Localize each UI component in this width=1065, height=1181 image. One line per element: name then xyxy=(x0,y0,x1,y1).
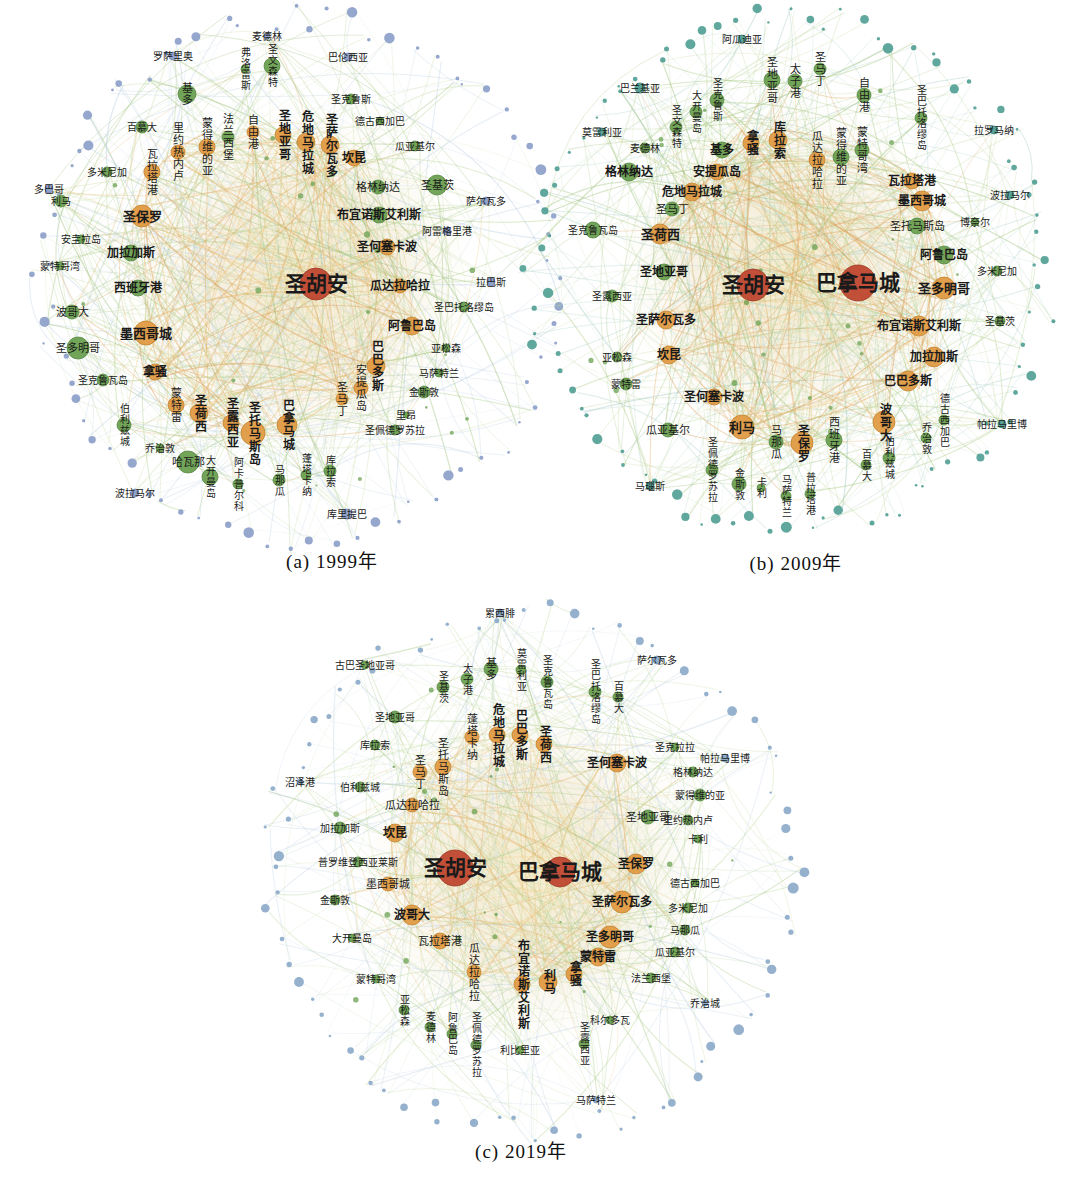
city-label: 圣佩德罗苏拉 xyxy=(471,1012,482,1078)
city-label: 圣巴托洛缪岛 xyxy=(434,301,494,313)
city-label: 普拉塔港 xyxy=(805,471,816,516)
city-label: 阿瓜迪亚 xyxy=(722,34,762,45)
speckle-dot xyxy=(113,183,118,188)
peripheral-dot xyxy=(432,1099,440,1107)
peripheral-dot xyxy=(731,521,736,526)
peripheral-dot xyxy=(540,189,548,197)
peripheral-dot xyxy=(548,234,551,237)
peripheral-dot xyxy=(505,107,509,111)
peripheral-dot xyxy=(71,164,74,167)
peripheral-dot xyxy=(930,467,934,471)
peripheral-dot xyxy=(767,21,769,23)
city-label: 亚松森 xyxy=(602,351,632,363)
peripheral-dot xyxy=(536,200,540,204)
speckle-dot xyxy=(444,353,447,356)
peripheral-dot xyxy=(694,1072,703,1081)
city-label: 波哥大 xyxy=(394,907,430,922)
city-label: 圣马丁 xyxy=(656,203,689,215)
peripheral-dot xyxy=(788,883,799,894)
peripheral-dot xyxy=(834,506,843,515)
city-label: 蒙特哥湾 xyxy=(356,973,396,985)
peripheral-dot xyxy=(533,405,538,410)
city-label: 马萨特兰 xyxy=(419,367,459,379)
city-label: 蒙特哥湾 xyxy=(40,260,80,272)
peripheral-dot xyxy=(42,342,44,344)
peripheral-dot xyxy=(788,856,793,861)
city-label: 大开曼岛 xyxy=(205,454,216,499)
peripheral-dot xyxy=(645,473,648,476)
peripheral-dot xyxy=(1021,343,1025,347)
peripheral-dot xyxy=(633,77,638,82)
edge xyxy=(1019,129,1032,181)
edge xyxy=(275,669,360,793)
city-label: 里约热内卢 xyxy=(172,122,185,182)
peripheral-dot xyxy=(359,1055,364,1060)
city-label: 危地马拉城 xyxy=(490,702,505,768)
city-label: 西班牙港 xyxy=(114,280,163,295)
city-label: 圣马丁 xyxy=(336,381,349,417)
peripheral-dot xyxy=(69,381,74,386)
city-label: 多米尼加 xyxy=(87,166,127,178)
figure-page: 麦德林罗萨里奥弗洛雷斯圣文森特巴伦西亚基多圣克鲁斯百慕大德古西加巴里约热内卢蒙得… xyxy=(0,0,1065,1181)
city-label: 坎昆 xyxy=(383,825,407,840)
peripheral-dot xyxy=(570,609,580,619)
city-label: 安圭拉岛 xyxy=(61,233,101,245)
speckle-dot xyxy=(659,137,664,142)
network-a: 麦德林罗萨里奥弗洛雷斯圣文森特巴伦西亚基多圣克鲁斯百慕大德古西加巴里约热内卢蒙得… xyxy=(29,2,563,554)
city-label: 巴巴多斯 xyxy=(884,373,932,388)
edges xyxy=(518,6,1055,532)
peripheral-dot xyxy=(580,407,584,411)
peripheral-dot xyxy=(569,387,576,394)
city-label: 圣基茨 xyxy=(438,671,449,704)
city-label: 拉罗马纳 xyxy=(974,124,1014,136)
edge xyxy=(425,616,506,651)
peripheral-dot xyxy=(660,57,665,62)
network-b: 阿瓜迪亚巴兰基亚圣克鲁斯大开曼岛圣文森特圣地亚哥太子港圣马丁自由港圣巴托洛缪岛莫… xyxy=(518,4,1055,534)
city-label: 圣荷西 xyxy=(192,394,207,433)
city-label: 圣克鲁瓦岛 xyxy=(78,374,128,386)
peripheral-dot xyxy=(477,627,481,631)
speckle-dot xyxy=(956,273,959,276)
speckle-dot xyxy=(829,406,833,410)
city-label: 伯利兹城 xyxy=(884,435,895,480)
city-label: 蒙得维的亚 xyxy=(201,117,214,177)
city-label: 蓬塔卡纳 xyxy=(301,453,312,497)
city-label: 帕拉马里博 xyxy=(700,752,750,764)
city-label: 博奈尔 xyxy=(960,216,990,228)
peripheral-dot xyxy=(883,43,894,54)
peripheral-dot xyxy=(367,38,371,42)
speckle-dot xyxy=(358,477,362,481)
peripheral-dot xyxy=(800,867,810,877)
peripheral-dot xyxy=(706,1042,715,1051)
city-label: 瓦拉塔港 xyxy=(888,173,937,188)
peripheral-dot xyxy=(877,37,880,40)
peripheral-dot xyxy=(227,16,232,21)
speckle-dot xyxy=(732,380,738,386)
city-label: 累西腓 xyxy=(485,608,515,619)
peripheral-dot xyxy=(261,904,270,913)
city-label: 马瑙斯 xyxy=(635,480,665,492)
city-label: 蒙得维的亚 xyxy=(835,127,848,187)
speckle-dot xyxy=(298,193,303,198)
peripheral-dot xyxy=(1041,256,1049,264)
peripheral-dot xyxy=(456,77,460,81)
speckle-dot xyxy=(425,406,428,409)
city-label: 金斯敦 xyxy=(734,467,745,501)
peripheral-dot xyxy=(384,33,395,44)
city-label: 波哥大 xyxy=(56,305,89,318)
peripheral-dot xyxy=(274,864,279,869)
city-label: 法兰西堡 xyxy=(222,112,235,161)
peripheral-dot xyxy=(1035,213,1039,217)
city-label: 拿骚 xyxy=(744,129,759,156)
peripheral-dot xyxy=(375,645,380,650)
city-label: 圣胡安 xyxy=(722,273,785,297)
city-label: 西班牙港 xyxy=(828,416,841,464)
peripheral-dot xyxy=(400,1104,408,1112)
city-label: 圣佩德罗苏拉 xyxy=(365,424,425,436)
peripheral-dot xyxy=(294,977,304,987)
peripheral-dot xyxy=(532,306,537,311)
peripheral-dot xyxy=(727,706,737,716)
peripheral-dot xyxy=(950,84,959,93)
speckle-dot xyxy=(484,911,486,913)
peripheral-dot xyxy=(1013,390,1018,395)
